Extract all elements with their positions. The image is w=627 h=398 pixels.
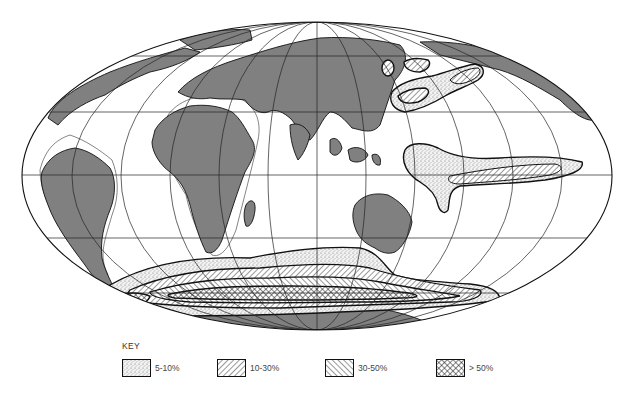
key-item-10-30: 10-30%	[217, 358, 279, 378]
key-label: 5-10%	[155, 363, 180, 373]
world-map	[0, 0, 627, 340]
key-label: > 50%	[469, 363, 493, 373]
key-item-5-10: 5-10%	[122, 358, 180, 378]
key-title: KEY	[122, 341, 140, 351]
key-item-30-50: 30-50%	[325, 358, 387, 378]
backward-hatch-swatch-icon	[325, 359, 354, 377]
key-item-over-50: > 50%	[436, 358, 493, 378]
forward-hatch-swatch-icon	[217, 359, 246, 377]
key-label: 10-30%	[250, 363, 279, 373]
crosshatch-swatch-icon	[436, 359, 465, 377]
key-label: 30-50%	[358, 363, 387, 373]
stipple-swatch-icon	[122, 359, 151, 377]
